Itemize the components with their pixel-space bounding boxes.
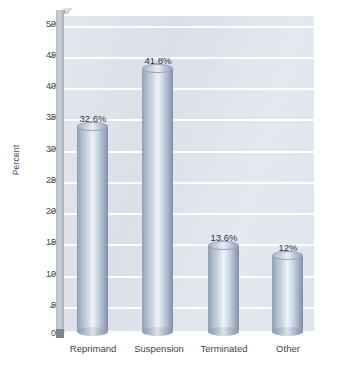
y-axis-title: Percent [11,120,21,200]
gridline-50 [64,26,314,28]
gridline-40 [64,88,314,90]
data-label-other: 12% [258,243,318,253]
data-label-suspension: 41.8% [128,56,188,66]
y-tick-label-0: 0 [30,329,56,338]
bar-terminated-base [208,327,239,336]
bar-terminated [208,245,239,331]
bar-other-base [272,327,303,336]
x-axis-label-suspension: Suspension [124,344,194,354]
y-axis-ticks: 50 45 40 35 30 25 20 15 10 5 0 [22,0,56,370]
x-axis-label-other: Other [253,344,323,354]
bar-reprimand [77,126,108,331]
x-axis-label-terminated: Terminated [189,344,259,354]
data-label-terminated: 13.6% [194,233,254,243]
bar-reprimand-base [77,327,108,336]
axis-corner [56,329,64,338]
data-label-reprimand: 32.6% [63,114,123,124]
bar-suspension [142,68,173,331]
x-axis-label-reprimand: Reprimand [58,344,128,354]
gridline-45 [64,57,314,59]
bar-other [272,255,303,331]
bar-suspension-base [142,327,173,336]
bar-chart: Percent 50 45 40 35 30 25 20 15 10 5 0 [0,0,340,370]
